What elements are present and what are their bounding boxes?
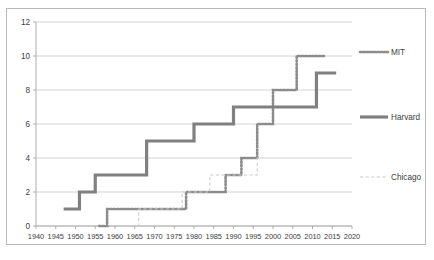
y-tick-label: 12 — [21, 18, 31, 27]
x-tick-label: 1990 — [225, 232, 241, 241]
x-tick-label: 1940 — [28, 232, 44, 241]
y-tick-label: 4 — [25, 154, 30, 163]
y-tick-label: 6 — [25, 120, 30, 129]
x-tick-label: 1950 — [67, 232, 83, 241]
x-tick-label: 1980 — [186, 232, 202, 241]
series-line-mit — [99, 56, 324, 226]
legend-label-harvard: Harvard — [391, 113, 421, 122]
x-tick-label: 1960 — [107, 232, 123, 241]
series-line-harvard — [64, 73, 337, 209]
x-tick-label: 1970 — [146, 232, 162, 241]
data-series-group — [64, 56, 337, 226]
legend-label-chicago: Chicago — [391, 173, 421, 182]
x-tick-label: 1965 — [127, 232, 143, 241]
y-tick-label: 0 — [25, 222, 30, 231]
x-tick-label: 2000 — [265, 232, 281, 241]
legend-label-mit: MIT — [391, 48, 405, 57]
x-tick-label: 1985 — [206, 232, 222, 241]
chart-container: 024681012 194019451950195519601965197019… — [0, 0, 434, 260]
legend-group: MITHarvardChicago — [360, 48, 421, 182]
x-tick-label: 2005 — [285, 232, 301, 241]
chart-svg: 024681012 194019451950195519601965197019… — [0, 0, 434, 260]
x-tick-label: 1945 — [48, 232, 64, 241]
y-tick-label: 8 — [25, 86, 30, 95]
y-tick-label: 10 — [21, 52, 31, 61]
x-tick-label: 2015 — [324, 232, 340, 241]
y-tick-labels: 024681012 — [21, 18, 31, 231]
y-tick-label: 2 — [25, 188, 30, 197]
x-tick-label: 1975 — [166, 232, 182, 241]
x-tick-labels: 1940194519501955196019651970197519801985… — [28, 232, 360, 241]
x-tick-label: 1995 — [245, 232, 261, 241]
x-tick-label: 1955 — [87, 232, 103, 241]
x-tick-label: 2020 — [344, 232, 360, 241]
x-tick-label: 2010 — [304, 232, 320, 241]
